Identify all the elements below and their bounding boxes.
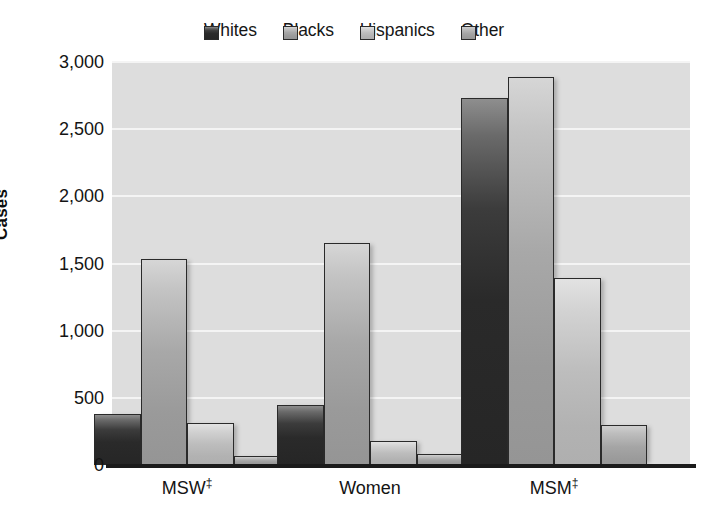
bar-chart-figure: WhitesBlacksHispanicsOther 05001,0001,50… xyxy=(0,0,708,518)
legend-swatch-icon-hispanics xyxy=(360,26,375,40)
x-axis-tick-text: MSM xyxy=(530,478,572,498)
chart-legend: WhitesBlacksHispanicsOther xyxy=(0,22,708,40)
bar-group-msw xyxy=(94,62,280,465)
y-axis-label: Cases xyxy=(0,189,12,240)
bar-hispanics-msm xyxy=(554,278,601,465)
bars-layer xyxy=(112,62,690,465)
bar-other-msm xyxy=(601,425,648,465)
footnote-marker: ‡ xyxy=(572,476,579,490)
x-axis-tick-label: Women xyxy=(339,478,401,499)
legend-swatch-icon-whites xyxy=(204,26,219,40)
bar-blacks-women xyxy=(324,243,371,465)
plot-area xyxy=(112,62,690,465)
y-axis-tick-label: 1,000 xyxy=(0,320,104,341)
bar-blacks-msm xyxy=(508,77,555,465)
bar-blacks-msw xyxy=(141,259,188,465)
footnote-marker: ‡ xyxy=(206,476,213,490)
legend-item-whites: Whites xyxy=(204,22,257,40)
bar-whites-msm xyxy=(461,98,508,465)
legend-item-other: Other xyxy=(461,22,504,40)
legend-swatch-icon-other xyxy=(461,26,476,40)
x-axis-tick-label: MSW‡ xyxy=(162,478,213,499)
y-axis-tick-label: 500 xyxy=(0,387,104,408)
x-axis-tick-text: Women xyxy=(339,478,401,498)
bar-hispanics-women xyxy=(370,441,417,465)
legend-item-hispanics: Hispanics xyxy=(360,22,435,40)
y-axis-tick-label: 2,000 xyxy=(0,186,104,207)
bar-whites-women xyxy=(277,405,324,465)
x-axis-tick-label: MSM‡ xyxy=(530,478,579,499)
legend-item-blacks: Blacks xyxy=(283,22,334,40)
bar-group-msm xyxy=(461,62,647,465)
y-axis-tick-label: 2,500 xyxy=(0,119,104,140)
axis-baseline xyxy=(106,464,696,468)
y-axis-tick-label: 0 xyxy=(0,455,104,476)
y-axis-tick-label: 3,000 xyxy=(0,52,104,73)
bar-group-women xyxy=(277,62,463,465)
bar-hispanics-msw xyxy=(187,423,234,465)
y-axis-tick-label: 1,500 xyxy=(0,253,104,274)
x-axis-tick-text: MSW xyxy=(162,478,206,498)
legend-swatch-icon-blacks xyxy=(283,26,298,40)
